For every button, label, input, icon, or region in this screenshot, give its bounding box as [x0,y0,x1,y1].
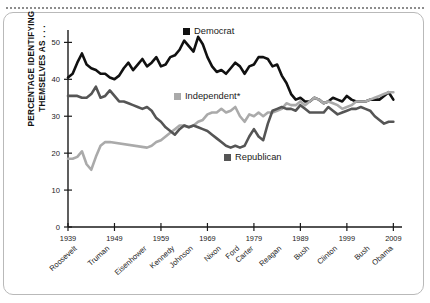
president-label-group: Reagan [257,244,283,268]
president-label-group: Truman [86,244,111,268]
president-label: Roosevelt [48,243,80,273]
x-tick-label: 1979 [246,234,262,243]
president-label: Eisenhower [113,243,149,277]
y-tick-label: 20 [52,149,60,158]
independent-swatch-icon [174,93,181,100]
president-label-group: Clinton [315,244,339,267]
y-tick-label: 30 [52,112,60,121]
republican-swatch-icon [224,154,231,161]
x-tick-label: 1969 [199,234,215,243]
president-label: Reagan [257,244,283,268]
president-label: Bush [292,244,311,262]
y-tick-label: 50 [52,38,60,47]
president-label-group: Nixon [202,244,222,264]
president-label: Bush [353,244,372,262]
y-axis-label: PERCENTAGE IDENTIFYING THEMSELVES AS . .… [27,0,48,144]
legend-item-democrat: Democrat [183,26,234,36]
legend-item-republican: Republican [224,152,282,162]
president-label-group: Bush [353,244,372,262]
x-tick-label: 1959 [153,234,169,243]
chart-svg: 0102030405019391949195919691979198919992… [0,0,430,303]
president-label: Nixon [202,244,222,264]
president-label-group: Obama [370,243,395,267]
legend-label-democrat: Democrat [194,26,234,36]
legend-label-republican: Republican [235,152,282,162]
president-label-group: Eisenhower [113,243,149,277]
chart-figure: PERCENTAGE IDENTIFYING THEMSELVES AS . .… [0,0,430,303]
president-label: Clinton [315,244,339,267]
y-tick-label: 40 [52,75,60,84]
legend-label-independent: Independent* [185,91,240,101]
x-tick-label: 1999 [339,234,355,243]
x-tick-label: 1989 [292,234,308,243]
x-tick-label: 1939 [60,234,76,243]
legend-item-independent: Independent* [174,91,240,101]
president-label-group: Bush [292,244,311,262]
democrat-swatch-icon [183,28,190,35]
president-label-group: Roosevelt [48,243,80,273]
x-tick-label: 2009 [385,234,401,243]
president-label: Obama [370,243,395,267]
x-tick-label: 1949 [106,234,122,243]
president-label: Truman [86,244,111,268]
y-tick-label: 10 [52,186,60,195]
y-tick-label: 0 [56,223,60,232]
